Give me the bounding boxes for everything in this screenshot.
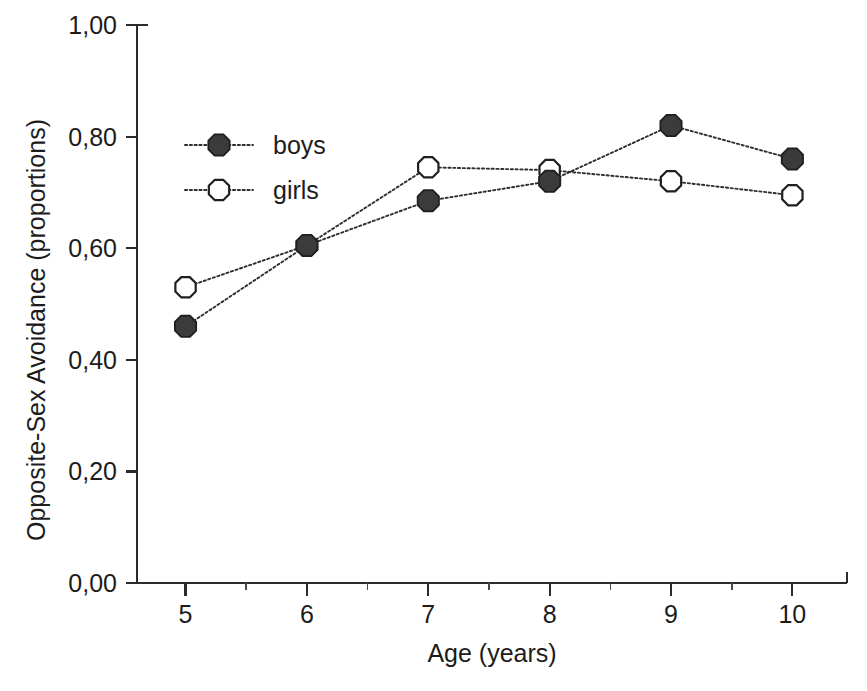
data-point-girls-age-5: [175, 277, 195, 297]
legend-marker-boys: [208, 134, 229, 155]
line-chart: Opposite-Sex Avoidance (proportions) Age…: [0, 0, 867, 691]
y-tick-label-1: 0,20: [68, 457, 117, 485]
y-tick-label-4: 0,80: [68, 123, 117, 151]
x-tick-label-3: 8: [543, 600, 557, 628]
y-axis-title: Opposite-Sex Avoidance (proportions): [22, 119, 50, 541]
data-point-boys-age-10: [782, 148, 803, 169]
y-tick-label-2: 0,40: [68, 346, 117, 374]
data-point-boys-age-8: [539, 171, 560, 192]
x-axis-title: Age (years): [427, 639, 556, 667]
y-tick-label-5: 1,00: [68, 11, 117, 39]
data-point-girls-age-9: [661, 171, 681, 191]
x-tick-label-5: 10: [778, 600, 806, 628]
data-point-girls-age-7: [418, 157, 438, 177]
x-tick-label-1: 6: [300, 600, 314, 628]
data-point-boys-age-6: [296, 235, 317, 256]
y-tick-label-3: 0,60: [68, 234, 117, 262]
x-tick-label-0: 5: [179, 600, 193, 628]
data-point-boys-age-7: [418, 190, 439, 211]
x-axis-tick-labels: 5678910: [179, 600, 807, 628]
legend-label-girls: girls: [273, 176, 319, 204]
legend-marker-girls: [209, 180, 229, 200]
chart-legend: boysgirls: [185, 131, 326, 204]
chart-container: Opposite-Sex Avoidance (proportions) Age…: [0, 0, 867, 691]
data-point-boys-age-9: [660, 115, 681, 136]
legend-label-boys: boys: [273, 131, 326, 159]
data-point-girls-age-10: [782, 185, 802, 205]
x-tick-label-4: 9: [664, 600, 678, 628]
data-point-boys-age-5: [175, 316, 196, 337]
series-markers: [175, 115, 803, 337]
x-tick-label-2: 7: [421, 600, 435, 628]
y-axis-tick-labels: 0,000,200,400,600,801,00: [68, 11, 117, 597]
y-tick-label-0: 0,00: [68, 569, 117, 597]
